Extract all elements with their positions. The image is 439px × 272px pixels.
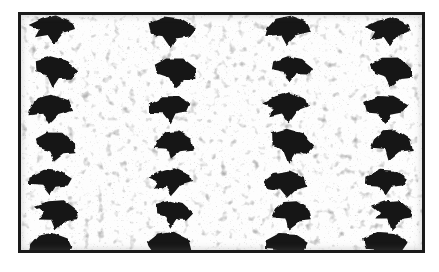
- figure-root: [0, 0, 439, 272]
- micrograph-frame: [18, 12, 425, 253]
- specimen-field: [21, 15, 422, 250]
- specimen-image: [21, 15, 422, 250]
